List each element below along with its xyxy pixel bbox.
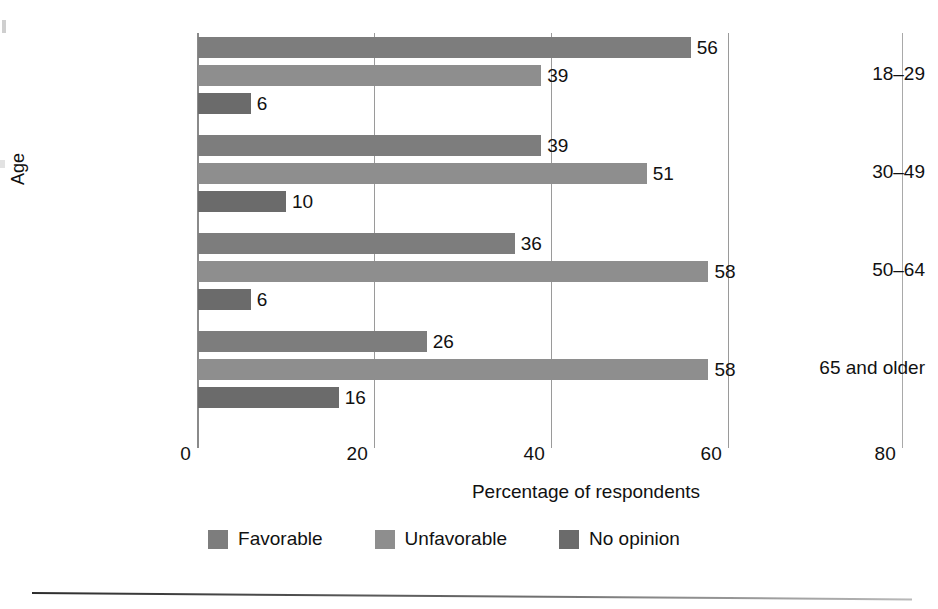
- bar-value-65-older-no-opinion: 16: [339, 387, 366, 408]
- bar-65-older-no-opinion: [198, 387, 339, 408]
- bar-value-18-29-favorable: 56: [691, 37, 718, 58]
- bar-value-65-older-unfavorable: 58: [708, 359, 735, 380]
- bar-value-50-64-unfavorable: 58: [708, 261, 735, 282]
- y-axis-title: Age: [8, 153, 29, 185]
- bar-30-49-favorable: [198, 135, 541, 156]
- legend-label-unfavorable: Unfavorable: [405, 528, 507, 550]
- xtick-label-40: 40: [523, 443, 551, 465]
- bar-18-29-favorable: [198, 37, 691, 58]
- gridline-60: [728, 33, 729, 448]
- gridline-40: [551, 33, 552, 448]
- bar-value-30-49-favorable: 39: [541, 135, 568, 156]
- bar-18-29-no-opinion: [198, 93, 251, 114]
- category-label-65-older: 65 and older: [753, 357, 938, 379]
- legend-label-favorable: Favorable: [238, 528, 323, 550]
- bar-value-18-29-unfavorable: 39: [541, 65, 568, 86]
- category-label-50-64: 50–64: [753, 259, 938, 281]
- bar-value-30-49-no-opinion: 10: [286, 191, 313, 212]
- bar-50-64-no-opinion: [198, 289, 251, 310]
- bar-18-29-unfavorable: [198, 65, 541, 86]
- page-edge-mark: [2, 20, 6, 33]
- bar-30-49-no-opinion: [198, 191, 286, 212]
- bar-30-49-unfavorable: [198, 163, 647, 184]
- x-axis-title-text: Percentage of respondents: [472, 481, 700, 503]
- legend-label-no-opinion: No opinion: [589, 528, 680, 550]
- xtick-label-60: 60: [700, 443, 728, 465]
- legend-item-no-opinion: No opinion: [559, 528, 680, 550]
- category-label-30-49: 30–49: [753, 161, 938, 183]
- bar-value-65-older-favorable: 26: [427, 331, 454, 352]
- bar-65-older-unfavorable: [198, 359, 708, 380]
- bar-value-30-49-unfavorable: 51: [647, 163, 674, 184]
- plot-area: 0 20 40 60 80 18–29 30–49 50–64 65 and o…: [0, 0, 938, 609]
- xtick-label-80: 80: [874, 443, 902, 465]
- bar-65-older-favorable: [198, 331, 427, 352]
- x-axis-title: Percentage of respondents: [0, 481, 938, 503]
- bar-50-64-favorable: [198, 233, 515, 254]
- legend-swatch-unfavorable-icon: [375, 530, 395, 549]
- chart-legend: Favorable Unfavorable No opinion: [0, 528, 913, 550]
- legend-swatch-favorable-icon: [208, 530, 228, 549]
- bar-chart-figure: 0 20 40 60 80 18–29 30–49 50–64 65 and o…: [0, 0, 938, 609]
- category-label-18-29: 18–29: [753, 63, 938, 85]
- xtick-label-20: 20: [346, 443, 374, 465]
- bar-50-64-unfavorable: [198, 261, 708, 282]
- bar-value-50-64-favorable: 36: [515, 233, 542, 254]
- page-edge-mark-secondary: [0, 160, 5, 168]
- bar-value-18-29-no-opinion: 6: [251, 93, 268, 114]
- legend-item-favorable: Favorable: [208, 528, 323, 550]
- legend-swatch-no-opinion-icon: [559, 530, 579, 549]
- legend-item-unfavorable: Unfavorable: [375, 528, 507, 550]
- gridline-80: [902, 33, 903, 448]
- xtick-label-0: 0: [180, 443, 197, 465]
- bar-value-50-64-no-opinion: 6: [251, 289, 268, 310]
